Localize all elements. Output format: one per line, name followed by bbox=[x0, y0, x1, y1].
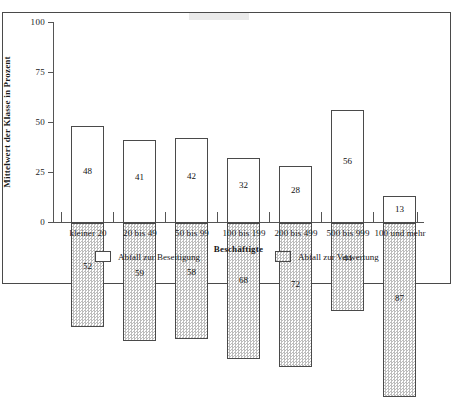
white-square-icon bbox=[95, 251, 111, 262]
bar-value-lower: 42 bbox=[176, 172, 207, 181]
x-tick-sep bbox=[165, 212, 166, 223]
legend-item-verwertung[interactable]: Abfall zur Verwertung bbox=[275, 251, 379, 262]
segment-verwertung[interactable]: 58 bbox=[175, 223, 208, 339]
segment-beseitigung[interactable]: 48 bbox=[71, 126, 104, 223]
bar-value-upper: 68 bbox=[228, 276, 259, 285]
y-axis-line bbox=[53, 22, 54, 223]
legend-label-beseitigung: Abfall zur Beseitigung bbox=[118, 252, 200, 262]
bar-value-lower: 28 bbox=[280, 186, 311, 195]
segment-beseitigung[interactable]: 41 bbox=[123, 140, 156, 223]
hatched-square-icon bbox=[275, 251, 291, 262]
segment-beseitigung[interactable]: 32 bbox=[227, 158, 260, 223]
segment-beseitigung[interactable]: 13 bbox=[383, 196, 416, 223]
x-tick-sep bbox=[417, 212, 418, 223]
x-tick-sep bbox=[217, 212, 218, 223]
scan-artifact bbox=[189, 13, 249, 20]
x-tick-sep bbox=[373, 212, 374, 223]
y-tick-label-0: 0 bbox=[40, 217, 45, 227]
y-tick-label-50: 50 bbox=[35, 117, 45, 127]
x-tick-sep bbox=[269, 212, 270, 223]
segment-beseitigung[interactable]: 28 bbox=[279, 166, 312, 223]
y-tick-label-25: 25 bbox=[35, 167, 45, 177]
x-tick-sep bbox=[61, 212, 62, 223]
segment-verwertung[interactable]: 59 bbox=[123, 223, 156, 341]
y-tick-label-75: 75 bbox=[35, 67, 45, 77]
y-tick-label-100: 100 bbox=[31, 17, 45, 27]
y-axis-title: Mittelwert der Klasse in Prozent bbox=[2, 56, 12, 188]
x-tick-sep bbox=[321, 212, 322, 223]
bar-value-upper: 87 bbox=[384, 294, 415, 303]
plot-area: Mittelwert der Klasse in Prozent 0 25 50… bbox=[53, 22, 424, 223]
x-tick-label-6: 100 und mehr bbox=[359, 228, 441, 238]
segment-beseitigung[interactable]: 42 bbox=[175, 138, 208, 223]
bar-value-lower: 48 bbox=[72, 167, 103, 176]
chart-legend: Abfall zur Beseitigung Abfall zur Verwer… bbox=[3, 251, 450, 277]
segment-beseitigung[interactable]: 56 bbox=[331, 110, 364, 223]
bar-value-lower: 32 bbox=[228, 181, 259, 190]
chart-figure: Mittelwert der Klasse in Prozent 0 25 50… bbox=[2, 12, 451, 284]
bar-value-upper: 72 bbox=[280, 280, 311, 289]
x-tick-sep bbox=[113, 212, 114, 223]
bar-value-lower: 56 bbox=[332, 157, 363, 166]
bar-value-lower: 13 bbox=[384, 205, 415, 214]
bar-value-lower: 41 bbox=[124, 173, 155, 182]
legend-label-verwertung: Abfall zur Verwertung bbox=[298, 252, 379, 262]
legend-item-beseitigung[interactable]: Abfall zur Beseitigung bbox=[95, 251, 200, 262]
